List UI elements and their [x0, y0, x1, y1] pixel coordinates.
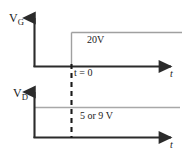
vg-axis-label-subscript: G — [18, 17, 24, 27]
vg-plot-group — [34, 18, 183, 67]
timing-diagram-canvas — [0, 0, 185, 160]
vg-time-axis-label: t — [170, 69, 173, 79]
vg-axis-label: VG — [9, 12, 24, 27]
vg-axis-label-main: V — [9, 11, 18, 25]
vd-axis-label-main: V — [13, 86, 22, 100]
vd-time-axis-label: t — [170, 140, 173, 150]
t-zero-label: t = 0 — [74, 68, 92, 78]
vd-value-label: 5 or 9 V — [80, 111, 113, 121]
timing-diagram-figure: VG VD 20V 5 or 9 V t = 0 t t — [0, 0, 185, 160]
vg-value-label: 20V — [87, 35, 104, 45]
vd-axis-label: VD — [13, 87, 28, 102]
vd-axis-label-subscript: D — [22, 92, 28, 102]
